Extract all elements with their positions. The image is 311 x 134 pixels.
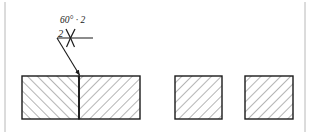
right-plate-section (79, 76, 140, 119)
left-plate-hatch-fill (22, 76, 79, 119)
left-welded-assembly (22, 76, 140, 119)
right-detached-plate-hatch-fill (245, 76, 293, 119)
drawing-svg: 60° · 2 2 (0, 0, 311, 134)
technical-drawing-canvas: 60° · 2 2 (0, 0, 311, 134)
left-plate-section (22, 76, 79, 119)
right-detached-plate-section (245, 76, 293, 119)
middle-plate-hatch-fill (175, 76, 222, 119)
weld-symbol-annotation: 60° · 2 2 (57, 15, 93, 75)
groove-angle-label: 60° · 2 (60, 15, 85, 25)
root-dimension-label: 2 (58, 28, 64, 39)
right-plate-hatch-fill (79, 76, 140, 119)
middle-plate-section (175, 76, 222, 119)
